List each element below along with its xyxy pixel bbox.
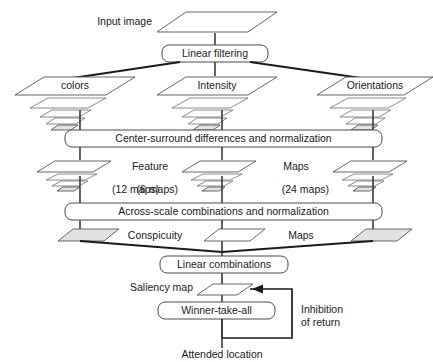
orientations-plate-3 [340, 110, 391, 117]
feature-maps-colors-plate-2 [46, 174, 97, 180]
orientations-plate-5 [351, 125, 378, 130]
maps-24-label: (24 maps) [282, 183, 329, 195]
saliency-map-label: Saliency map [130, 281, 193, 293]
colors-plate-5 [51, 125, 78, 130]
maps-6-label: (6 maps) [137, 183, 178, 195]
intensity-plate-5 [193, 125, 220, 130]
orientations-plate-2 [330, 98, 406, 108]
intensity-plate-2 [172, 98, 248, 108]
saliency-map-plate [197, 284, 253, 295]
feature-maps-intensity-plate-1 [182, 161, 256, 172]
feature-maps-colors-plate-1 [37, 161, 111, 172]
feature-maps-orientations-plate-1 [333, 161, 407, 172]
connector-conspicuitycolors-to-linearcomb [80, 241, 222, 252]
colors-label: colors [61, 79, 89, 91]
center-surround-label: Center-surround differences and normaliz… [115, 132, 332, 144]
conspicuity-map-orientations [351, 229, 412, 241]
intensity-plate-4 [188, 118, 227, 124]
colors-plate-4 [46, 118, 85, 124]
conspicuity-map-intensity [204, 229, 265, 241]
intensity-plate-3 [182, 110, 233, 117]
winner-take-all-label: Winner-take-all [181, 304, 252, 316]
feature-label: Feature [132, 160, 168, 172]
maps-bottom-label: Maps [288, 229, 314, 241]
feature-maps-intensity-plate-3 [197, 181, 233, 186]
linear-combinations-label: Linear combinations [177, 258, 271, 270]
across-scale-label: Across-scale combinations and normalizat… [118, 205, 329, 217]
inhibition-arrowhead [252, 285, 263, 294]
connector-conspicuityorientations-to-linearcomb [222, 241, 373, 252]
colors-plate-2 [30, 98, 106, 108]
feature-maps-colors-plate-3 [52, 181, 88, 186]
input-image-label: Input image [97, 15, 152, 27]
diagram-canvas: Input image Linear filtering colors Inte… [0, 0, 433, 362]
connector-linearfiltering-to-colors [66, 62, 180, 79]
intensity-label: Intensity [197, 79, 237, 91]
linear-filtering-label: Linear filtering [182, 47, 248, 59]
feature-maps-orientations-plate-2 [342, 174, 393, 180]
orientations-label: Orientations [347, 79, 404, 91]
feature-maps-intensity-plate-2 [191, 174, 242, 180]
feature-maps-colors-plate-4 [57, 187, 80, 191]
maps-top-label: Maps [283, 160, 309, 172]
inhibition-label-line2: of return [301, 316, 340, 328]
connector-linearfiltering-to-orientations [250, 62, 368, 79]
orientations-plate-4 [346, 118, 385, 124]
saliency-model-diagram: Input image Linear filtering colors Inte… [0, 0, 433, 362]
conspicuity-label: Conspicuity [128, 229, 183, 241]
feature-maps-orientations-plate-3 [348, 181, 384, 186]
inhibition-label-line1: Inhibition [301, 303, 343, 315]
attended-location-label: Attended location [181, 348, 262, 360]
conspicuity-map-colors [58, 229, 119, 241]
input-image-plate [157, 12, 277, 32]
colors-plate-3 [40, 110, 91, 117]
